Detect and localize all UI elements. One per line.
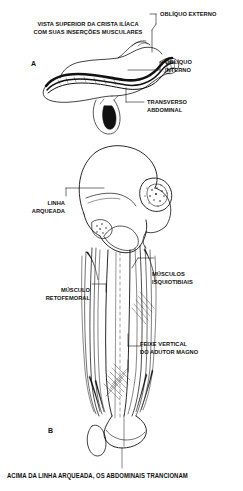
label-musculos-isquiotibiais: MÚSCULOS ISQUIOTIBIAIS (152, 270, 231, 285)
panel-letter-a: A (31, 60, 36, 67)
label-feixe-vertical-adutor-magno: FEIXE VERTICAL DO ADUTOR MAGNO (140, 340, 230, 355)
label-obliquo-externo: OBLÍQUO EXTERNO (160, 10, 235, 18)
leader-lines (66, 14, 176, 372)
label-musculo-retofemoral: MÚSCULO RETOFEMORAL (26, 286, 90, 301)
label-transverso-abdominal: TRANSVERSO ABDOMINAL (147, 98, 230, 113)
anatomical-illustration (0, 0, 243, 491)
panel-b-artwork (79, 146, 172, 468)
panel-letter-b: B (48, 427, 53, 434)
figure-title: VISTA SUPERIOR DA CRISTA ILÍACA COM SUAS… (13, 20, 164, 35)
panel-a-artwork (43, 41, 179, 134)
anatomy-figure-page: VISTA SUPERIOR DA CRISTA ILÍACA COM SUAS… (0, 0, 243, 491)
label-linha-arqueada: LINHA ARQUEADA (11, 199, 65, 214)
figure-bottom-caption: ACIMA DA LINHA ARQUEADA, OS ABDOMINAIS T… (7, 472, 188, 479)
label-obliquo-interno: OBLÍQUO INTERNO (165, 58, 229, 73)
